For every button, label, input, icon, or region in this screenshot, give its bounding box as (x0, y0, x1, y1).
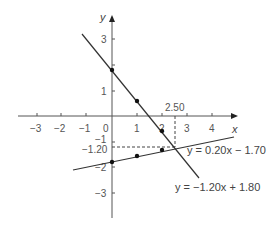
x-axis-arrow-icon (231, 113, 238, 119)
x-tick-label: 1 (134, 123, 140, 134)
x-tick-label: 3 (184, 123, 190, 134)
data-point (135, 154, 139, 158)
data-point (160, 129, 164, 133)
equation-label-series-1: y = −1.20x + 1.80 (175, 181, 260, 193)
equation-label-series-2: y = 0.20x − 1.70 (187, 144, 266, 156)
x-axis-label: x (231, 123, 238, 135)
x-tick-label: −2 (54, 123, 66, 134)
intersection-y-label: −1.20 (82, 144, 108, 155)
chart-canvas: −3 −2 −1 0 1 2 3 4 x 3 1 −1 −2 −3 y 2.50… (0, 0, 270, 232)
y-axis-arrow-icon (109, 15, 115, 22)
data-point (135, 99, 139, 103)
data-point (110, 160, 114, 164)
y-tick-label: −3 (95, 188, 107, 199)
x-tick-label: 0 (103, 123, 109, 134)
y-axis-label: y (99, 11, 107, 23)
x-tick-label: −3 (30, 123, 42, 134)
y-tick-label: 3 (101, 34, 107, 45)
intersection-x-label: 2.50 (165, 102, 185, 113)
x-tick-label: 4 (209, 123, 215, 134)
data-point (110, 68, 114, 72)
x-tick-label: −1 (79, 123, 91, 134)
data-point (160, 148, 164, 152)
y-tick-label: 1 (101, 86, 107, 97)
